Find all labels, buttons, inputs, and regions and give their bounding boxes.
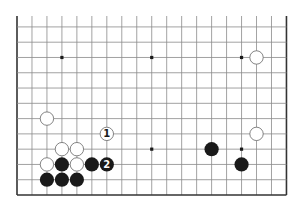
- white-stone-icon: [70, 158, 83, 171]
- go-board: 12: [0, 0, 300, 208]
- move-number-label: 1: [103, 128, 110, 139]
- white-stone: [250, 127, 263, 140]
- black-stone: [205, 142, 219, 156]
- white-stone: [55, 142, 68, 155]
- black-stone-icon: [55, 157, 69, 171]
- white-stone-icon: [70, 142, 83, 155]
- black-stone: [85, 157, 99, 171]
- star-point-icon: [150, 56, 153, 59]
- white-stone-icon: [250, 51, 263, 64]
- white-stone-icon: [40, 112, 53, 125]
- white-stone: [250, 51, 263, 64]
- white-stone-icon: [250, 127, 263, 140]
- black-stone-move-2: 2: [100, 157, 114, 171]
- white-stone: [40, 158, 53, 171]
- white-stone: [70, 142, 83, 155]
- white-stone-icon: [55, 142, 68, 155]
- white-stone: [70, 158, 83, 171]
- black-stone: [70, 173, 84, 187]
- black-stone: [234, 157, 248, 171]
- star-point-icon: [150, 148, 153, 151]
- black-stone-icon: [55, 173, 69, 187]
- star-point-icon: [240, 56, 243, 59]
- black-stone-icon: [234, 157, 248, 171]
- black-stone-icon: [70, 173, 84, 187]
- white-stone: [40, 112, 53, 125]
- black-stone-icon: [40, 173, 54, 187]
- black-stone: [55, 173, 69, 187]
- black-stone: [40, 173, 54, 187]
- move-number-label: 2: [103, 159, 110, 170]
- star-point-icon: [240, 148, 243, 151]
- go-board-diagram: 12: [0, 0, 300, 208]
- white-stone-icon: [40, 158, 53, 171]
- black-stone-icon: [85, 157, 99, 171]
- white-stone-move-1: 1: [100, 127, 113, 140]
- star-point-icon: [60, 56, 63, 59]
- black-stone: [55, 157, 69, 171]
- black-stone-icon: [205, 142, 219, 156]
